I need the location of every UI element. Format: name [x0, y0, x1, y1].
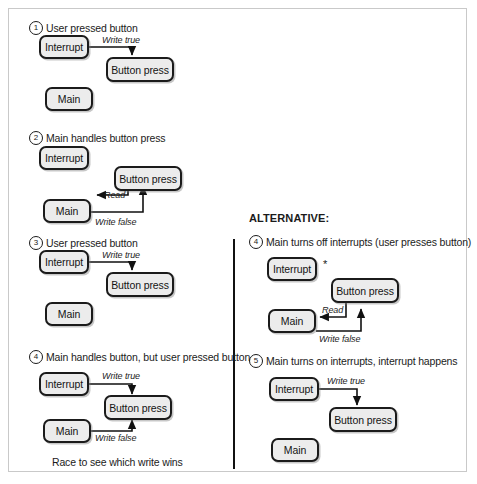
edge-write-true-p1 — [89, 47, 132, 55]
step-heading-1: 1 User pressed button — [29, 21, 138, 35]
node-main-p4: Main — [43, 419, 91, 443]
alternative-heading: ALTERNATIVE: — [249, 212, 329, 224]
edge-label-write-true-p1: Write true — [102, 35, 140, 45]
step-title: Main handles button press — [46, 132, 165, 144]
step-heading-3: 3 User pressed button — [29, 236, 138, 250]
node-button-press-p3: Button press — [106, 272, 174, 297]
node-main-r5: Main — [271, 438, 319, 462]
diagram-page: 1 User pressed button Interrupt Write tr… — [8, 8, 467, 472]
node-interrupt-r5: Interrupt — [269, 377, 319, 401]
node-button-press-r4: Button press — [331, 278, 399, 303]
edge-write-true-r5 — [319, 389, 357, 405]
node-interrupt-p3: Interrupt — [39, 250, 89, 274]
step-number: 4 — [29, 350, 43, 364]
step-title: Main handles button, but user pressed bu… — [46, 351, 250, 363]
edge-label-write-true-p3: Write true — [102, 250, 140, 260]
edge-label-read-p2: Read — [104, 190, 125, 200]
step-number: 2 — [29, 131, 43, 145]
step-heading-4-left: 4 Main handles button, but user pressed … — [29, 350, 250, 364]
node-main-p3: Main — [45, 302, 93, 326]
diagram-canvas: 1 User pressed button Interrupt Write tr… — [9, 9, 466, 471]
step-heading-4-right: 4 Main turns off interrupts (user presse… — [249, 235, 471, 249]
edge-label-write-true-r5: Write true — [327, 376, 365, 386]
step-number: 3 — [29, 236, 43, 250]
node-main-p1: Main — [45, 87, 93, 111]
node-interrupt-p2: Interrupt — [39, 146, 89, 170]
edge-write-false-p4 — [91, 420, 132, 431]
step-number: 1 — [29, 21, 43, 35]
step-number: 5 — [249, 354, 263, 368]
edge-write-true-p3 — [89, 262, 132, 270]
node-interrupt-r4: Interrupt — [267, 257, 317, 281]
step-number: 4 — [249, 235, 263, 249]
edge-label-read-r4: Read — [322, 305, 343, 315]
step-heading-5-right: 5 Main turns on interrupts, interrupt ha… — [249, 354, 457, 368]
edge-label-write-true-p4: Write true — [102, 371, 140, 381]
node-button-press-p2: Button press — [114, 166, 182, 191]
node-interrupt-p4: Interrupt — [39, 372, 89, 396]
edge-write-true-p4 — [89, 384, 132, 394]
step-title: Main turns on interrupts, interrupt happ… — [266, 355, 457, 367]
step-title: Main turns off interrupts (user presses … — [266, 236, 471, 248]
node-button-press-r5: Button press — [329, 407, 397, 432]
edge-label-write-false-p4: Write false — [95, 433, 136, 443]
node-button-press-p4: Button press — [104, 395, 172, 420]
step-title: User pressed button — [46, 237, 138, 249]
node-main-r4: Main — [268, 309, 316, 333]
node-button-press-p1: Button press — [106, 57, 174, 82]
step-heading-2: 2 Main handles button press — [29, 131, 165, 145]
step-title: User pressed button — [46, 22, 138, 34]
panel-caption-race: Race to see which write wins — [52, 456, 183, 468]
interrupt-disabled-asterisk: * — [323, 259, 327, 270]
edge-label-write-false-p2: Write false — [95, 217, 136, 227]
node-interrupt-p1: Interrupt — [39, 35, 89, 59]
edge-label-write-false-r4: Write false — [319, 334, 360, 344]
node-main-p2: Main — [43, 199, 91, 223]
